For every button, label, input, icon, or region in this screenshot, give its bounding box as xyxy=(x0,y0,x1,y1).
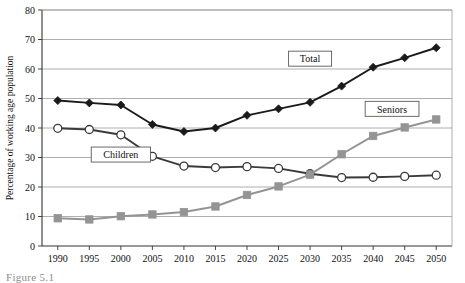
y-tick-label: 40 xyxy=(25,123,35,134)
data-point-marker xyxy=(401,124,408,131)
y-tick-label: 10 xyxy=(25,211,35,222)
data-point-marker xyxy=(54,215,61,222)
data-point-marker xyxy=(401,172,409,180)
x-tick-label: 2035 xyxy=(332,253,352,264)
x-axis-ticks: 1990199520002005201020152020202520302035… xyxy=(48,246,446,264)
x-tick-label: 1995 xyxy=(79,253,99,264)
y-axis-title: Percentage of working age population xyxy=(5,55,15,200)
data-point-marker xyxy=(180,162,188,170)
y-tick-label: 0 xyxy=(30,241,35,252)
data-point-marker xyxy=(180,208,187,215)
callout-label: Children xyxy=(103,149,138,160)
x-tick-label: 1990 xyxy=(48,253,68,264)
y-tick-label: 80 xyxy=(25,5,35,16)
data-point-marker xyxy=(432,171,440,179)
data-point-marker xyxy=(338,151,345,158)
data-point-marker xyxy=(369,132,376,139)
y-tick-label: 30 xyxy=(25,152,35,163)
y-tick-label: 60 xyxy=(25,64,35,75)
data-point-marker xyxy=(243,163,251,171)
callout-label: Seniors xyxy=(377,104,407,115)
data-point-marker xyxy=(243,191,250,198)
callout-children: Children xyxy=(91,147,150,162)
figure-caption: Figure 5.1 xyxy=(6,271,54,283)
x-tick-label: 2010 xyxy=(174,253,194,264)
data-point-marker xyxy=(275,164,283,172)
x-tick-label: 2020 xyxy=(237,253,257,264)
data-point-marker xyxy=(338,174,346,182)
data-point-marker xyxy=(306,171,313,178)
data-point-marker xyxy=(85,125,93,133)
data-point-marker xyxy=(117,213,124,220)
x-tick-label: 2000 xyxy=(111,253,131,264)
x-tick-label: 2005 xyxy=(142,253,162,264)
x-tick-label: 2050 xyxy=(426,253,446,264)
data-point-marker xyxy=(211,164,219,172)
x-tick-label: 2025 xyxy=(269,253,289,264)
data-point-marker xyxy=(275,183,282,190)
data-point-marker xyxy=(433,116,440,123)
x-tick-label: 2045 xyxy=(395,253,415,264)
data-point-marker xyxy=(149,211,156,218)
x-tick-label: 2040 xyxy=(363,253,383,264)
callout-seniors: Seniors xyxy=(365,101,419,116)
data-point-marker xyxy=(86,216,93,223)
y-tick-label: 20 xyxy=(25,182,35,193)
y-axis-title-text: Percentage of working age population xyxy=(5,55,15,200)
y-tick-label: 50 xyxy=(25,93,35,104)
data-point-marker xyxy=(212,203,219,210)
callout-label: Total xyxy=(300,53,321,64)
y-tick-label: 70 xyxy=(25,34,35,45)
x-tick-label: 2015 xyxy=(205,253,225,264)
callout-total: Total xyxy=(289,51,332,66)
data-point-marker xyxy=(117,131,125,139)
y-axis-ticks: 01020304050607080 xyxy=(25,5,42,252)
data-point-marker xyxy=(369,173,377,181)
x-tick-label: 2030 xyxy=(300,253,320,264)
data-point-marker xyxy=(54,124,62,132)
